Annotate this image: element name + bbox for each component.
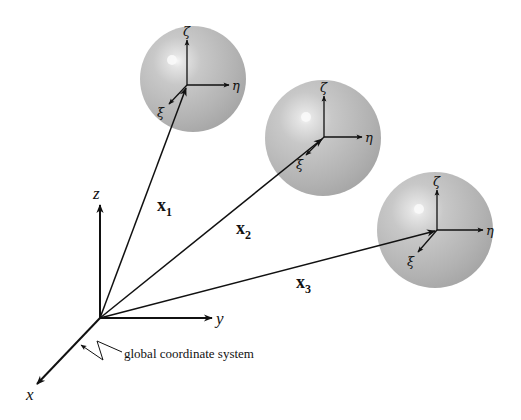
position-vector-x3-label: x3 [296, 272, 311, 296]
caption-leader-arrow [81, 341, 122, 360]
sphere-3-eta-label: η [486, 223, 494, 238]
sphere-3: ζ η ξ [377, 172, 494, 288]
position-vector-x2-label: x2 [236, 218, 251, 242]
global-coordinate-system-label: global coordinate system [124, 346, 254, 361]
sphere-1-eta-label: η [232, 78, 240, 93]
sphere-3-zeta-label: ζ [433, 174, 441, 189]
sphere-2-zeta-label: ζ [320, 80, 328, 95]
sphere-1-xi-label: ξ [157, 105, 165, 120]
sphere-1-highlight [167, 55, 177, 65]
sphere-3-xi-label: ξ [407, 254, 415, 269]
coordinate-diagram: ζ η ξ ζ η ξ ζ η ξ x1 x2 x3 z y x [0, 0, 521, 420]
global-x-label: x [25, 385, 34, 404]
sphere-2: ζ η ξ [265, 80, 381, 196]
position-vector-x1-label: x1 [157, 195, 172, 219]
sphere-2-highlight [301, 112, 311, 122]
sphere-3-highlight [414, 204, 424, 214]
sphere-1-zeta-label: ζ [183, 24, 191, 39]
sphere-1: ζ η ξ [140, 24, 246, 132]
global-y-label: y [214, 309, 224, 328]
sphere-2-eta-label: η [365, 130, 373, 145]
global-z-label: z [92, 184, 100, 203]
position-vector-x3 [100, 231, 435, 318]
sphere-1-body [140, 26, 246, 132]
